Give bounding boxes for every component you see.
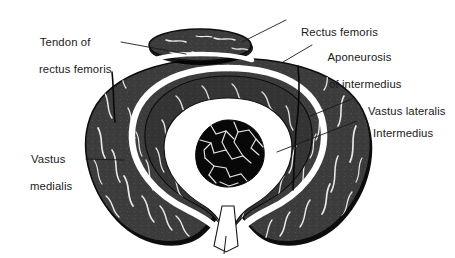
label-tendon-of-rectus-femoris-line2: rectus femoris [27, 63, 112, 76]
label-intermedius: Intermedius [360, 114, 433, 154]
label-rectus-femoris-line1: Rectus femoris [301, 26, 378, 38]
femur [196, 120, 265, 187]
leader-rectus-femoris [242, 20, 286, 42]
anatomy-figure: Tendon of rectus femoris Rectus femoris … [0, 0, 455, 258]
label-aponeurosis-of-intermedius-line2: of intermedius [315, 78, 402, 91]
label-vastus-medialis-line1: Vastus [31, 153, 65, 165]
label-intermedius-line1: Intermedius [373, 127, 433, 139]
label-tendon-of-rectus-femoris-line1: Tendon of [40, 36, 91, 48]
label-vastus-medialis-line2: medialis [18, 180, 72, 193]
label-vastus-medialis: Vastus medialis [18, 140, 72, 220]
rectus-femoris [149, 29, 253, 65]
label-aponeurosis-of-intermedius-line1: Aponeurosis [327, 51, 391, 63]
label-tendon-of-rectus-femoris: Tendon of rectus femoris [27, 23, 112, 103]
